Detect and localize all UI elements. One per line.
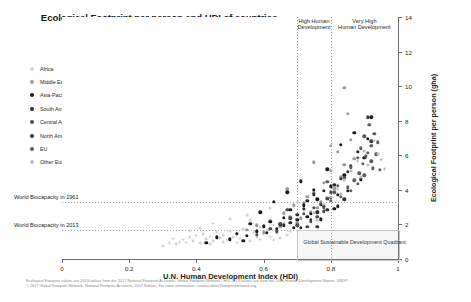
data-point — [313, 212, 316, 215]
band-divider — [331, 17, 332, 259]
legend-marker-icon — [30, 120, 34, 124]
data-point — [175, 243, 178, 246]
y-tick — [398, 52, 402, 53]
data-point — [366, 163, 369, 166]
data-point — [329, 196, 332, 199]
x-tick-label: 0.6 — [259, 265, 268, 272]
data-point — [272, 224, 275, 227]
data-point — [269, 235, 272, 238]
biocapacity-line — [62, 202, 399, 203]
legend-marker-icon — [30, 67, 34, 71]
chart-page: Ecological Footprint per person and HDI … — [0, 0, 471, 302]
data-point — [188, 236, 191, 239]
data-point — [316, 219, 319, 222]
legend-marker-icon — [30, 80, 34, 84]
band-label: Very HighHuman Development — [324, 18, 404, 31]
data-point — [376, 153, 379, 156]
data-point — [229, 230, 232, 233]
data-point — [208, 235, 211, 238]
data-point — [198, 242, 201, 245]
data-point — [168, 242, 171, 245]
data-point — [350, 169, 353, 172]
y-tick-label: 10 — [405, 83, 412, 90]
data-point — [212, 240, 215, 243]
data-point — [323, 203, 326, 206]
data-point — [222, 241, 225, 244]
y-axis-title: Ecological Footprint per person (gha) — [429, 74, 438, 202]
x-tick-label: 0.2 — [125, 265, 134, 272]
x-tick-label: 1 — [396, 265, 399, 272]
data-point — [198, 227, 201, 230]
data-point — [235, 241, 238, 244]
data-point — [182, 238, 185, 241]
x-tick-label: 0.8 — [326, 265, 335, 272]
data-point — [363, 150, 366, 153]
data-point — [245, 214, 248, 217]
data-point — [208, 242, 211, 245]
data-point — [272, 239, 275, 242]
data-point — [249, 239, 252, 242]
y-tick — [398, 224, 402, 225]
legend-marker-icon — [30, 107, 34, 111]
data-point — [178, 240, 181, 243]
y-tick-label: 0 — [405, 256, 408, 263]
data-point — [383, 168, 386, 171]
y-tick-label: 12 — [405, 48, 412, 55]
data-point — [373, 139, 376, 142]
data-point — [192, 239, 195, 242]
quadrant-label: Global Sustainable Development Quadrant — [303, 239, 406, 245]
data-point — [202, 233, 205, 236]
plot-background — [62, 17, 398, 259]
legend-marker-icon — [30, 160, 34, 164]
data-point — [195, 234, 198, 237]
legend-marker-icon — [30, 147, 34, 151]
data-point — [232, 235, 235, 238]
plot-area — [62, 17, 398, 259]
x-tick — [62, 259, 63, 263]
legend-item-label: Africa — [40, 66, 54, 72]
data-point — [286, 234, 289, 237]
legend-item-label: EU — [40, 146, 47, 152]
data-point — [215, 231, 218, 234]
y-tick-label: 4 — [405, 186, 408, 193]
data-point — [289, 230, 292, 233]
data-point — [269, 207, 272, 210]
band-label-line-2: Human Development — [324, 24, 404, 30]
legend-marker-icon — [30, 93, 34, 97]
y-tick-label: 6 — [405, 152, 408, 159]
data-point — [279, 237, 282, 240]
footnote-line-2: © 2017 Global Footprint Network, Nationa… — [26, 283, 446, 288]
data-point — [219, 237, 222, 240]
y-tick-label: 8 — [405, 117, 408, 124]
data-point — [222, 233, 225, 236]
y-tick — [398, 190, 402, 191]
y-tick — [398, 86, 402, 87]
data-point — [296, 201, 299, 204]
x-tick — [196, 259, 197, 263]
footnote: Ecological Footprint values are 2013 val… — [26, 278, 446, 289]
data-point — [259, 238, 262, 241]
data-point — [380, 158, 383, 161]
biocapacity-line-label: World Biocapacity in 2013 — [14, 222, 79, 228]
x-tick — [264, 259, 265, 263]
quadrant-box — [297, 230, 400, 261]
data-point — [161, 245, 164, 248]
data-point — [255, 236, 258, 239]
data-point — [212, 222, 215, 225]
y-tick-label: 14 — [405, 14, 412, 21]
data-point — [229, 218, 232, 221]
data-point — [343, 179, 346, 182]
legend-marker-icon — [30, 134, 34, 138]
data-point — [339, 193, 342, 196]
x-tick-label: 0 — [60, 265, 63, 272]
x-tick-label: 0.4 — [192, 265, 201, 272]
data-point — [188, 230, 191, 233]
data-point — [356, 160, 359, 163]
x-tick — [129, 259, 130, 263]
y-tick — [398, 155, 402, 156]
data-point — [336, 188, 339, 191]
biocapacity-line-label: World Biocapacity in 1961 — [14, 194, 79, 200]
data-point — [360, 175, 363, 178]
y-tick — [398, 121, 402, 122]
data-point — [171, 237, 174, 240]
